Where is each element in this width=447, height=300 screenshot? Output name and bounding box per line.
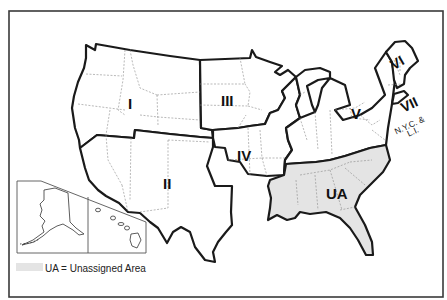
alaska-shape [22, 188, 84, 245]
region-iii-label: III [221, 92, 234, 109]
region-i-label: I [128, 95, 132, 112]
region-ii-area [80, 130, 232, 262]
region-iv-label: IV [237, 147, 251, 164]
region-ii-label: II [163, 175, 171, 192]
legend-swatch [16, 263, 43, 271]
ua-label: UA [326, 185, 348, 202]
us-region-map: I II III IV V VI VII N.Y.C. & L.I. UA UA… [0, 0, 447, 300]
legend: UA = Unassigned Area [16, 263, 146, 274]
region-v-label: V [351, 105, 361, 122]
hawaii-islands [96, 208, 142, 248]
legend-text: UA = Unassigned Area [45, 263, 146, 274]
